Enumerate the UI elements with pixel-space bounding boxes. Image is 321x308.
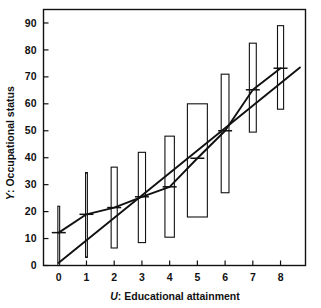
- y-axis-title-text: : Occupational status: [4, 86, 16, 193]
- occupational-status-chart: 0102030405060708090 012345678 Y: Occupat…: [0, 0, 321, 308]
- y-tick-label: 40: [25, 151, 37, 163]
- y-tick-label: 30: [25, 178, 37, 190]
- chart-figure: 0102030405060708090 012345678 Y: Occupat…: [0, 0, 321, 308]
- x-tick-label: 5: [194, 271, 200, 283]
- x-axis-title: U: Educational attainment: [110, 290, 240, 302]
- x-tick-label: 2: [111, 271, 117, 283]
- x-tick-label: 1: [84, 271, 90, 283]
- x-axis-title-text: : Educational attainment: [118, 290, 240, 302]
- y-tick-label: 60: [25, 97, 37, 109]
- y-tick-label: 90: [25, 17, 37, 29]
- y-axis-title: Y: Occupational status: [4, 86, 16, 200]
- y-tick-label: 0: [31, 259, 37, 271]
- x-tick-label: 3: [139, 271, 145, 283]
- x-tick-label: 4: [167, 271, 173, 283]
- x-tick-label: 6: [222, 271, 228, 283]
- chart-background: [0, 0, 321, 308]
- x-tick-label: 7: [250, 271, 256, 283]
- x-tick-label: 8: [278, 271, 284, 283]
- y-tick-label: 70: [25, 70, 37, 82]
- y-tick-label: 50: [25, 124, 37, 136]
- x-tick-label: 0: [56, 271, 62, 283]
- y-tick-label: 80: [25, 44, 37, 56]
- y-tick-label: 20: [25, 205, 37, 217]
- y-tick-label: 10: [25, 232, 37, 244]
